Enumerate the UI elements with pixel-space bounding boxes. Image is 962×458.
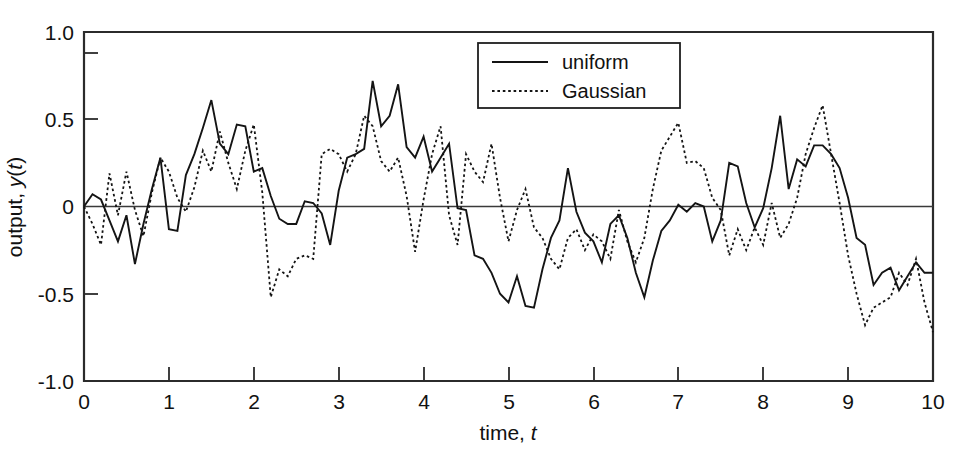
x-axis-title-text: time,: [479, 421, 530, 444]
x-axis-title: time, t: [479, 421, 537, 444]
y-tick-label: 0: [62, 195, 74, 218]
series-line-gaussian: [84, 105, 933, 332]
x-tick-label: 8: [757, 390, 769, 413]
x-tick-label: 2: [248, 390, 260, 413]
figure-container: 1.0 0.5 0 -0.5 -1.0 0 1 2 3 4 5 6 7 8 9 …: [0, 0, 962, 458]
x-tick-label: 7: [672, 390, 684, 413]
legend[interactable]: uniform Gaussian: [478, 43, 680, 108]
x-axis-title-variable: t: [531, 421, 538, 444]
legend-label-uniform: uniform: [562, 51, 629, 73]
x-tick-label: 0: [78, 390, 90, 413]
x-tick-label: 4: [418, 390, 430, 413]
y-axis-title-paren-open: (: [3, 170, 26, 177]
x-tick-label: 5: [503, 390, 515, 413]
x-tick-label: 3: [333, 390, 345, 413]
y-axis-title-text: output,: [3, 187, 26, 257]
x-tick-label: 1: [163, 390, 175, 413]
y-axis-title: output, y(t): [3, 157, 26, 257]
y-axis-title-paren-close: ): [3, 157, 26, 164]
x-tick-label: 6: [588, 390, 600, 413]
y-tick-label: -0.5: [38, 283, 74, 306]
y-tick-labels: 1.0 0.5 0 -0.5 -1.0: [38, 21, 74, 393]
x-tick-labels: 0 1 2 3 4 5 6 7 8 9 10: [78, 390, 945, 413]
x-tick-label: 9: [842, 390, 854, 413]
y-tick-label: 0.5: [45, 108, 74, 131]
x-tick-label: 10: [921, 390, 944, 413]
y-axis-ticks: [84, 53, 98, 294]
legend-label-gaussian: Gaussian: [562, 80, 647, 102]
noise-timeseries-chart: 1.0 0.5 0 -0.5 -1.0 0 1 2 3 4 5 6 7 8 9 …: [0, 0, 962, 458]
y-tick-label: -1.0: [38, 370, 74, 393]
series-line-uniform: [84, 81, 933, 308]
y-tick-label: 1.0: [45, 21, 74, 44]
x-axis-ticks: [169, 367, 848, 381]
